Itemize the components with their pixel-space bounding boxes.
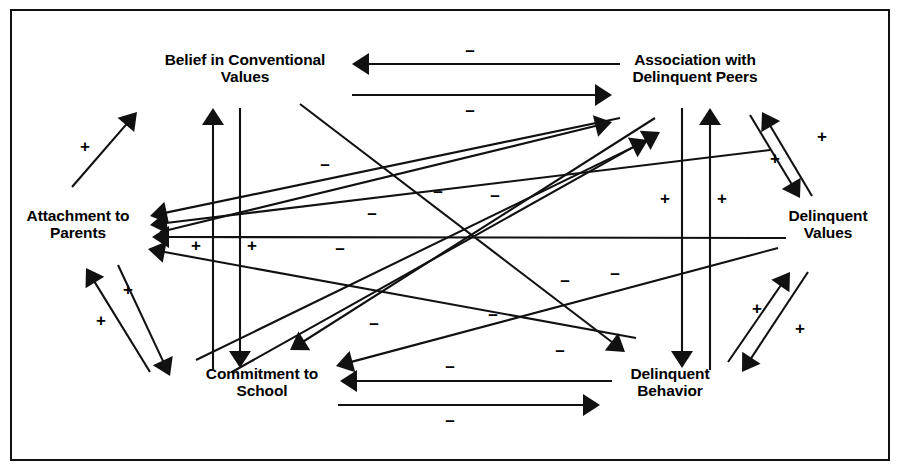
edge-sign-e14: – [487, 186, 503, 206]
edge-sign-e18: – [366, 314, 382, 334]
edge-line [196, 146, 635, 360]
edge-commitment-to-peers [196, 138, 648, 360]
edge-line [164, 118, 620, 213]
edge-sign-e23: + [814, 127, 830, 147]
edge-sign-e17: – [485, 305, 501, 325]
edge-sign-e2: – [462, 101, 478, 121]
node-values: Delinquent Values [771, 207, 886, 242]
arrowhead [742, 352, 761, 372]
edge-peers-to-attachment [150, 118, 620, 223]
edge-sign-e9: – [430, 182, 446, 202]
edge-sign-e6: + [714, 189, 730, 209]
edge-sign-e8: – [317, 155, 333, 175]
arrowhead [352, 53, 369, 75]
edge-behavior-to-peers [699, 108, 721, 370]
edge-values-to-attachment [150, 150, 770, 234]
arrowhead [782, 178, 801, 198]
arrowhead [761, 112, 780, 132]
edge-line [164, 150, 770, 223]
arrowhead [148, 241, 167, 263]
edge-sign-e19: – [552, 341, 568, 361]
arrowhead [595, 84, 612, 106]
node-attachment: Attachment to Parents [11, 207, 146, 242]
node-peers: Association with Delinquent Peers [605, 51, 785, 86]
edge-sign-e24: + [749, 299, 765, 319]
edge-behavior-to-commitment [340, 370, 612, 392]
edge-sign-e15: – [557, 271, 573, 291]
arrowhead [118, 112, 137, 132]
arrowhead [593, 115, 612, 136]
edge-sign-e5: + [657, 189, 673, 209]
edge-belief-to-peers [352, 84, 612, 106]
arrowhead [86, 268, 105, 288]
edge-belief-to-commitment [202, 108, 224, 370]
edge-sign-e21: – [442, 411, 458, 431]
arrowhead [290, 332, 310, 351]
edge-sign-e16: – [332, 239, 348, 259]
edge-sign-e22: + [767, 149, 783, 169]
edge-sign-e10: – [364, 204, 380, 224]
arrowhead [699, 108, 721, 125]
edge-sign-e12: + [120, 280, 136, 300]
edge-commitment-to-behavior [338, 394, 600, 416]
edge-sign-e13: + [93, 311, 109, 331]
edge-belief-to-behavior [300, 104, 625, 352]
arrowhead [340, 370, 357, 392]
arrowhead [202, 108, 224, 125]
edge-sign-e7: + [77, 137, 93, 157]
edge-peers-to-belief [352, 53, 620, 75]
node-commitment: Commitment to School [187, 365, 337, 400]
edge-sign-e4: + [244, 236, 260, 256]
edge-sign-e20: – [442, 357, 458, 377]
edge-sign-e3: + [188, 236, 204, 256]
node-behavior: Delinquent Behavior [610, 365, 730, 400]
path-diagram-figure: ––+++++––––++––––––––++++ Belief in Conv… [0, 0, 902, 474]
arrowhead [771, 272, 790, 292]
node-belief: Belief in Conventional Values [145, 51, 345, 86]
edge-peers-to-commitment [290, 118, 655, 350]
arrowhead [583, 394, 600, 416]
arrowhead [336, 351, 355, 372]
edge-line [162, 252, 636, 338]
edge-sign-e11: – [607, 264, 623, 284]
edge-sign-e1: – [462, 41, 478, 61]
edge-sign-e25: + [792, 319, 808, 339]
